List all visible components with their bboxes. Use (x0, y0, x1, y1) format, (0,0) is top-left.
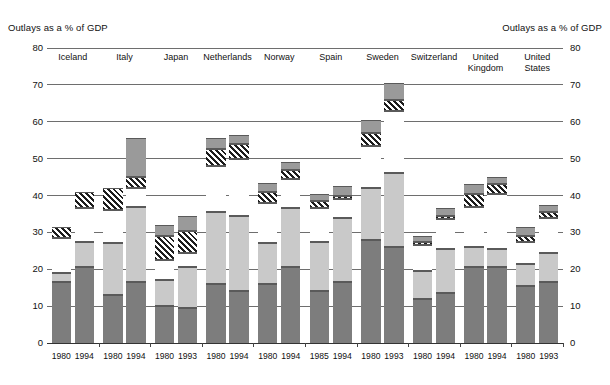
bar-norway-1980[interactable] (258, 183, 278, 343)
axis-tickmark (460, 343, 461, 347)
bar-japan-1993[interactable] (178, 216, 198, 343)
chart-title-left: Outlays as a % of GDP (8, 22, 108, 33)
bar-sweden-1980[interactable] (361, 120, 381, 343)
x-tick-sweden-1993: 1993 (378, 351, 410, 361)
bar-segment-4 (487, 184, 507, 193)
bar-segment-2 (361, 188, 381, 240)
bar-segment-3 (487, 194, 507, 249)
bar-segment-3 (206, 166, 226, 212)
bar-segment-4 (436, 216, 456, 220)
y-tick-left-30: 30 (13, 226, 43, 237)
axis-tickmark (357, 343, 358, 347)
bar-segment-1 (384, 247, 404, 343)
bar-segment-1 (539, 282, 559, 343)
axis-tickmark (99, 343, 100, 347)
bar-segment-2 (310, 242, 330, 292)
bar-segment-3 (281, 179, 301, 209)
chart-title-right: Outlays as a % of GDP (502, 22, 602, 33)
bar-segment-3 (384, 111, 404, 174)
bar-segment-3 (126, 188, 146, 206)
bar-segment-4 (229, 144, 249, 159)
bar-segment-5 (155, 225, 175, 236)
bar-segment-3 (155, 260, 175, 280)
bar-segment-2 (155, 280, 175, 306)
bar-segment-2 (539, 253, 559, 283)
bar-segment-5 (178, 216, 198, 231)
bar-segment-3 (229, 159, 249, 216)
bar-united-states-1993[interactable] (539, 205, 559, 343)
bar-spain-1985[interactable] (310, 194, 330, 343)
bar-united-kingdom-1980[interactable] (464, 184, 484, 343)
bar-segment-1 (361, 240, 381, 343)
bar-iceland-1994[interactable] (75, 192, 95, 343)
chart-canvas: Outlays as a % of GDP Outlays as a % of … (0, 0, 610, 385)
bar-segment-5 (206, 138, 226, 149)
x-tick-italy-1994: 1994 (120, 351, 152, 361)
bar-segment-2 (75, 242, 95, 268)
bar-segment-1 (281, 267, 301, 343)
bar-segment-5 (436, 208, 456, 215)
bar-italy-1994[interactable] (126, 138, 146, 343)
bar-united-kingdom-1994[interactable] (487, 177, 507, 343)
bar-switzerland-1994[interactable] (436, 208, 456, 343)
bar-norway-1994[interactable] (281, 162, 301, 343)
y-tick-left-20: 20 (13, 263, 43, 274)
bar-segment-5 (310, 194, 330, 201)
bar-segment-4 (413, 242, 433, 246)
bar-italy-1980[interactable] (103, 188, 123, 343)
axis-tickmark (408, 343, 409, 347)
axis-tickmark (150, 343, 151, 347)
y-tick-right-40: 40 (570, 190, 600, 201)
axis-tickmark (253, 343, 254, 347)
x-tick-iceland-1994: 1994 (69, 351, 101, 361)
bar-switzerland-1980[interactable] (413, 236, 433, 343)
bar-segment-1 (436, 293, 456, 343)
bar-segment-2 (126, 207, 146, 283)
bar-segment-2 (229, 216, 249, 292)
bar-segment-2 (258, 243, 278, 284)
bar-segment-4 (539, 212, 559, 218)
bar-segment-3 (436, 219, 456, 249)
bar-segment-4 (361, 133, 381, 146)
bar-segment-4 (258, 192, 278, 203)
bar-segment-5 (281, 162, 301, 169)
y-tick-left-60: 60 (13, 116, 43, 127)
bar-netherlands-1994[interactable] (229, 135, 249, 343)
bar-segment-3 (103, 210, 123, 243)
x-tick-norway-1994: 1994 (275, 351, 307, 361)
bar-japan-1980[interactable] (155, 225, 175, 343)
bar-segment-3 (516, 242, 536, 264)
bar-segment-4 (206, 149, 226, 166)
bar-segment-2 (516, 264, 536, 286)
bar-segment-5 (487, 177, 507, 184)
bar-segment-1 (413, 299, 433, 343)
bar-segment-1 (333, 282, 353, 343)
bar-segment-2 (464, 247, 484, 267)
bar-segment-1 (155, 306, 175, 343)
y-tick-right-80: 80 (570, 42, 600, 53)
y-tick-right-30: 30 (570, 226, 600, 237)
bar-segment-4 (516, 236, 536, 242)
bar-segment-3 (258, 203, 278, 244)
bar-segment-2 (178, 267, 198, 308)
bar-segment-4 (103, 188, 123, 210)
y-tick-right-60: 60 (570, 116, 600, 127)
bar-segment-2 (436, 249, 456, 293)
y-tick-left-70: 70 (13, 79, 43, 90)
bar-segment-1 (103, 295, 123, 343)
bar-netherlands-1980[interactable] (206, 138, 226, 343)
bar-segment-4 (310, 201, 330, 208)
y-tick-left-40: 40 (13, 190, 43, 201)
bar-segment-3 (361, 146, 381, 188)
bar-united-states-1980[interactable] (516, 227, 536, 343)
bar-iceland-1980[interactable] (52, 227, 72, 343)
bar-segment-1 (126, 282, 146, 343)
bar-segment-5 (361, 120, 381, 133)
bar-segment-2 (333, 218, 353, 283)
y-tick-right-20: 20 (570, 263, 600, 274)
bar-sweden-1993[interactable] (384, 83, 404, 343)
y-tick-left-10: 10 (13, 300, 43, 311)
bar-segment-3 (464, 207, 484, 248)
bar-spain-1994[interactable] (333, 186, 353, 343)
bar-segment-2 (487, 249, 507, 267)
